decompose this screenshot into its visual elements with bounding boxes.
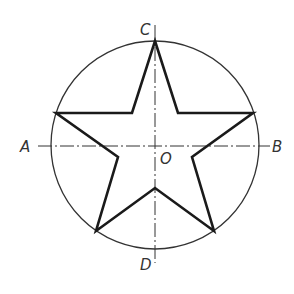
label-c: C [140, 21, 151, 39]
label-o: O [160, 150, 172, 168]
star-in-circle-diagram: C A B O D [0, 0, 294, 294]
label-a: A [19, 138, 30, 156]
label-b: B [272, 138, 282, 156]
label-d: D [140, 256, 152, 274]
